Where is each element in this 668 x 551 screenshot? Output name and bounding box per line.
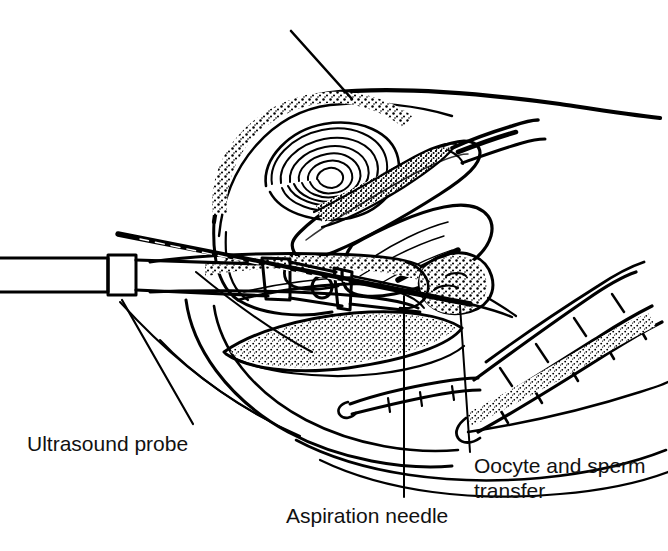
leader-top-bladder [291, 31, 352, 99]
probe-handle [0, 258, 108, 292]
probe-tip-shaft-bottom [290, 298, 342, 306]
label-oocyte-and-sperm-transfer: Oocyte and sperm transfer [474, 453, 659, 503]
catheter-distal-lower [352, 390, 480, 414]
figure-canvas: Ultrasound probe Aspiration needle Oocyt… [0, 0, 668, 551]
label-aspiration-needle: Aspiration needle [286, 503, 448, 528]
probe-collar [108, 255, 136, 295]
fallopian-tube-upper [452, 120, 538, 148]
label-ultrasound-probe: Ultrasound probe [27, 431, 188, 456]
